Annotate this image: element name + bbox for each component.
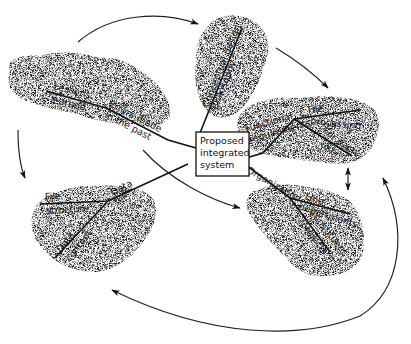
label-file: File [307, 102, 324, 115]
influence-diagram: Lessons learned Errors made in the past … [0, 0, 411, 344]
arrow-lessons-to-conceptual [78, 16, 198, 42]
label-structure: structure [46, 203, 90, 216]
arrow-lessons-to-data [18, 130, 25, 178]
center-line-2: integrated [200, 147, 250, 158]
arrow-conceptual-to-functional [276, 48, 328, 88]
center-line-1: Proposed [200, 135, 244, 146]
label-file-structure-file: File [45, 190, 62, 202]
center-box: Proposed integrated system [196, 132, 250, 176]
center-line-3: system [200, 159, 234, 170]
